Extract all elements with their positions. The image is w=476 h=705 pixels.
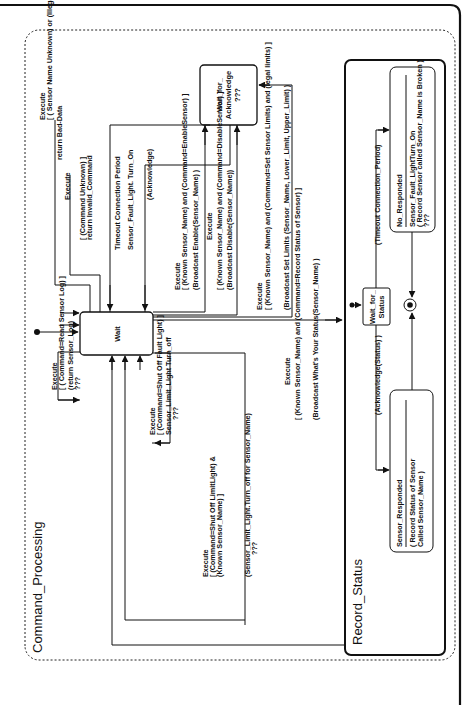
- wfa-line3: ???: [233, 88, 242, 102]
- rotated-stage: Command_Processing Wait Wait_for_ Acknow…: [0, 0, 476, 705]
- state-diagram: Command_Processing Wait Wait_for_ Acknow…: [0, 0, 476, 705]
- tr-limit-off-3: (Known Sensor_Name) ]: [215, 494, 224, 577]
- tr-invalid-1: Execute: [63, 172, 72, 200]
- tr-bad-data-2: [ ( Sensor Name Unknown) or (Illegal Lim…: [45, 0, 54, 120]
- no-responded-a2: ( Record Sensor called Sensor_Name is Br…: [415, 59, 424, 227]
- tr-ack: (Acknowledge): [145, 148, 154, 200]
- state-wait-label: Wait: [113, 326, 122, 342]
- diagram-frame: Command_Processing Wait Wait_for_ Acknow…: [0, 0, 476, 705]
- tr-disable-3: (Broadcast Disable(Sensor_Name)): [225, 169, 234, 290]
- tr-read-log-2: [ ( Command=Read Sensor Log) ]: [57, 276, 66, 390]
- record-status-title: Record_Status: [350, 559, 365, 645]
- tr-timeout-1: Timeout Connection Period: [113, 156, 122, 250]
- sensor-responded-a2: Called Sensor_Name ): [416, 470, 425, 547]
- tr-bad-data-3: return Bad-Data: [55, 105, 64, 160]
- limit-off-return: [125, 357, 245, 620]
- tr-ack-status: (Acknowledge(Status) ): [373, 335, 382, 415]
- wfa-line2: Acknowledge: [224, 71, 233, 119]
- tr-fault-off-4: ???: [171, 407, 180, 420]
- tr-timeout-2: Sensor_Fault_Light. Turn_On: [126, 150, 135, 251]
- tr-invalid-3: return Invalid_Command: [85, 155, 94, 240]
- tr-fault-off-2: [ (Command=Shut Off Fault Light) ]: [155, 315, 164, 435]
- tr-record-1: Execute: [283, 357, 292, 385]
- sensor-responded-name: Sensor_Responded: [395, 480, 404, 548]
- final-state-dot: [407, 302, 413, 308]
- tr-fault-off-3: Sensor_Limit_Light Turn_off: [164, 337, 173, 435]
- tr-disable-2: [ (Known Sensor_Name) and (Command=Disab…: [215, 92, 224, 290]
- tr-record-3: (Broadcast What's Your Status(Sensor_Nam…: [311, 258, 320, 420]
- wfs-line1: Wait_for_: [368, 289, 377, 324]
- tr-read-log-4: ???: [73, 377, 82, 390]
- tr-limit-off-5: ???: [250, 542, 259, 555]
- wfs-line2: Status: [377, 296, 386, 319]
- no-responded-a3: ???: [422, 214, 431, 227]
- tr-enable-2: [ (Known Sensor_Name) and (Command=Enabl…: [180, 94, 189, 290]
- tr-record-2: [ (Known Sensor_Name) and (Command=Recor…: [293, 188, 302, 420]
- command-processing-title: Command_Processing: [30, 521, 45, 653]
- tr-limits-3: (Broadcast Set Limits (Sensor_Name, Lowe…: [282, 84, 291, 310]
- no-responded-name: No_Responded: [395, 174, 404, 227]
- tr-limits-2: [ (Known Sensor_Name) and (Command=Set S…: [263, 42, 272, 310]
- tr-disable-1: Execute: [205, 212, 214, 240]
- tr-enable-3: (Broadcast Enable(Sensor_Name) ): [191, 169, 200, 290]
- tr-timeout-period: (Timeout Connection_Period): [373, 144, 382, 245]
